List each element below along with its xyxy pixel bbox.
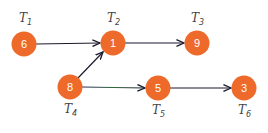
node-value: 6 — [21, 38, 27, 50]
task-label: T3 — [191, 11, 204, 27]
node-t5: 5 T5 — [146, 76, 171, 120]
node-value: 9 — [194, 37, 200, 49]
node-t4: 8 T4 — [58, 75, 83, 119]
task-label: T4 — [64, 102, 77, 118]
node-value: 5 — [155, 82, 161, 94]
task-graph: 6 T1 1 T2 9 T3 8 T4 5 T5 3 T6 — [0, 0, 268, 133]
node-t2: 1 T2 — [101, 11, 126, 56]
node-value: 8 — [67, 81, 73, 93]
edge-t4-t2 — [78, 52, 103, 78]
edge-t4-t5 — [82, 87, 145, 88]
node-value: 3 — [241, 82, 247, 94]
task-label: T2 — [107, 11, 120, 27]
node-t3: 9 T3 — [185, 11, 210, 56]
edge-t1-t2 — [36, 43, 100, 44]
node-value: 1 — [110, 37, 116, 49]
task-label: T1 — [19, 11, 32, 27]
task-label: T6 — [238, 103, 251, 119]
node-t1: 6 T1 — [12, 11, 37, 57]
task-label: T5 — [152, 103, 165, 119]
node-t6: 3 T6 — [232, 76, 257, 120]
